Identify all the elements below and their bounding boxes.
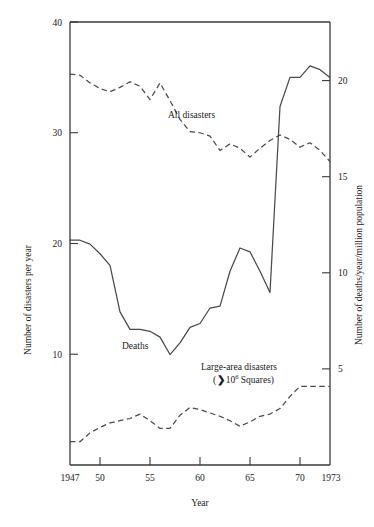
left-tick-label-30: 30 [53,128,63,138]
right-axis-ticks: 5 10 15 20 [322,76,348,374]
right-tick-label-20: 20 [338,76,348,86]
series-large-area-disasters-line [70,386,330,441]
left-axis-title: Number of disasters per year [23,244,33,355]
x-tick-label-1955: 55 [145,473,155,483]
left-axis-ticks: 40 30 20 10 [53,18,79,360]
left-tick-label-20: 20 [53,239,63,249]
annotation-deaths: Deaths [122,341,149,351]
right-axis-title: Number of deaths/year/million population [354,185,364,345]
plot-frame [70,22,330,465]
right-tick-label-15: 15 [338,172,348,182]
annotation-all-disasters: All disasters [168,110,216,120]
large-area-post: Squares) [238,375,274,386]
x-tick-label-1970: 70 [295,473,305,483]
svg-text:(❯106 Squares): (❯106 Squares) [213,373,274,386]
x-tick-label-1950: 50 [95,473,105,483]
x-tick-label-1965: 65 [245,473,255,483]
left-tick-label-40: 40 [53,18,63,28]
right-tick-label-10: 10 [338,268,348,278]
bottom-axis-ticks: 1947 50 55 60 65 70 1973 [61,457,341,483]
chart-svg: 40 30 20 10 5 10 15 20 1947 50 55 60 [0,0,374,527]
large-area-base: 10 [226,375,236,385]
right-tick-label-5: 5 [338,364,343,374]
x-tick-label-1960: 60 [195,473,205,483]
bottom-axis-title: Year [191,498,209,508]
greater-than-icon: ❯ [217,374,225,386]
annotation-large-area-disasters: Large-area disasters [201,362,277,372]
x-tick-label-1973: 1973 [322,473,341,483]
x-tick-label-1947: 1947 [61,473,80,483]
annotation-large-area-disasters-sub: (❯106 Squares) [213,373,274,386]
left-tick-label-10: 10 [53,350,63,360]
disasters-deaths-chart: 40 30 20 10 5 10 15 20 1947 50 55 60 [0,0,374,527]
large-area-paren-open: ( [213,375,216,386]
